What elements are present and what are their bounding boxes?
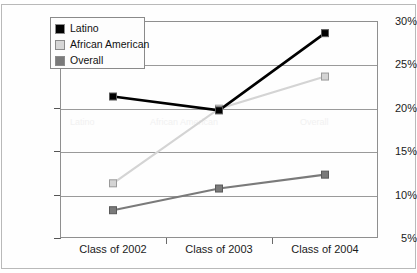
legend-swatch-latino — [55, 24, 65, 34]
legend-item-african-american: African American — [55, 37, 140, 52]
legend-swatch-overall — [55, 56, 65, 66]
data-point-marker — [322, 73, 329, 80]
legend-label-overall: Overall — [70, 55, 103, 66]
series-line-african-american — [113, 77, 325, 184]
data-point-marker — [216, 107, 223, 114]
data-point-marker — [110, 93, 117, 100]
legend-label-african-american: African American — [70, 39, 149, 50]
data-point-marker — [216, 185, 223, 192]
data-point-marker — [322, 171, 329, 178]
data-point-marker — [110, 180, 117, 187]
legend-label-latino: Latino — [70, 23, 99, 34]
legend-swatch-african-american — [55, 40, 65, 50]
data-point-marker — [322, 30, 329, 37]
legend-item-overall: Overall — [55, 53, 140, 68]
legend-item-latino: Latino — [55, 21, 140, 36]
legend: Latino African American Overall — [50, 17, 145, 69]
data-point-marker — [110, 207, 117, 214]
chart-container: 30% 25% 20% 15% 10% 5% Class of 2002 Cla… — [0, 0, 417, 273]
